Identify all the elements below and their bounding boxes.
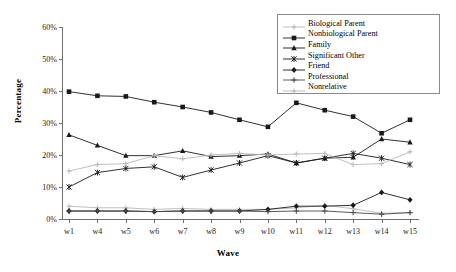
x-tick-label: w9 bbox=[235, 227, 245, 236]
x-tick bbox=[97, 219, 98, 223]
y-tick-label: 10% bbox=[42, 183, 57, 192]
legend-label: Friend bbox=[307, 61, 329, 70]
x-tick bbox=[69, 219, 70, 223]
x-tick-label: w14 bbox=[375, 227, 389, 236]
x-tick-label: w12 bbox=[318, 227, 332, 236]
x-tick bbox=[268, 219, 269, 223]
y-tick-label: 40% bbox=[42, 87, 57, 96]
x-tick bbox=[296, 219, 297, 223]
y-tick-label: 50% bbox=[42, 55, 57, 64]
legend-marker-icon bbox=[281, 71, 307, 81]
x-axis-title: Wave bbox=[0, 248, 456, 258]
x-tick bbox=[410, 219, 411, 223]
legend-item-family[interactable]: Family bbox=[281, 39, 437, 50]
legend-label: Professional bbox=[307, 72, 348, 81]
x-tick bbox=[183, 219, 184, 223]
legend-label: Nonrelative bbox=[307, 82, 347, 91]
legend-label: Family bbox=[307, 40, 331, 49]
legend-marker-icon bbox=[281, 61, 307, 71]
y-tick-label: 0% bbox=[46, 215, 57, 224]
y-tick-label: 20% bbox=[42, 151, 57, 160]
y-tick bbox=[59, 219, 63, 220]
x-tick-label: w11 bbox=[290, 227, 303, 236]
x-tick bbox=[325, 219, 326, 223]
x-tick bbox=[126, 219, 127, 223]
legend-marker-icon bbox=[281, 18, 307, 28]
legend-marker-icon bbox=[281, 39, 307, 49]
legend-marker-icon bbox=[281, 29, 307, 39]
x-tick bbox=[154, 219, 155, 223]
legend-item-significant-other[interactable]: Significant Other bbox=[281, 50, 437, 61]
legend-marker-icon bbox=[281, 82, 307, 92]
x-tick-label: w7 bbox=[178, 227, 188, 236]
chart-container: Percentage Wave 0%10%20%30%40%50%60% w1w… bbox=[0, 0, 456, 272]
x-tick-label: w1 bbox=[64, 227, 74, 236]
x-tick-label: w6 bbox=[149, 227, 159, 236]
x-tick-label: w4 bbox=[93, 227, 103, 236]
x-tick bbox=[382, 219, 383, 223]
x-tick-label: w10 bbox=[261, 227, 275, 236]
x-tick bbox=[211, 219, 212, 223]
legend-label: Nonbiological Parent bbox=[307, 29, 378, 38]
legend-item-nonbiological-parent[interactable]: Nonbiological Parent bbox=[281, 29, 437, 40]
x-tick-label: w5 bbox=[121, 227, 131, 236]
legend-item-friend[interactable]: Friend bbox=[281, 60, 437, 71]
legend-item-nonrelative[interactable]: Nonrelative bbox=[281, 82, 437, 93]
series-nonbiological-parent bbox=[67, 89, 413, 135]
legend-marker-icon bbox=[281, 50, 307, 60]
x-tick-label: w13 bbox=[346, 227, 360, 236]
legend-label: Biological Parent bbox=[307, 19, 365, 28]
legend-item-professional[interactable]: Professional bbox=[281, 71, 437, 82]
x-tick bbox=[353, 219, 354, 223]
y-tick-label: 30% bbox=[42, 119, 57, 128]
legend-item-biological-parent[interactable]: Biological Parent bbox=[281, 18, 437, 29]
x-axis-line bbox=[62, 219, 419, 220]
x-tick-label: w15 bbox=[403, 227, 417, 236]
y-axis-title: Percentage bbox=[13, 61, 23, 141]
x-tick-label: w8 bbox=[206, 227, 216, 236]
legend: Biological ParentNonbiological ParentFam… bbox=[277, 14, 440, 94]
y-tick-label: 60% bbox=[42, 23, 57, 32]
x-tick bbox=[240, 219, 241, 223]
legend-label: Significant Other bbox=[307, 51, 365, 60]
